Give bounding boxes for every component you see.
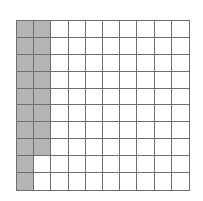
grid-cell [137, 38, 154, 55]
grid-cell [120, 89, 137, 106]
grid-cell-shaded [34, 122, 51, 139]
grid-cell-shaded [17, 89, 34, 106]
grid-cell-shaded [17, 156, 34, 173]
grid-cell [51, 105, 68, 122]
grid-cell [155, 122, 172, 139]
grid-cell [69, 122, 86, 139]
grid-cell [103, 173, 120, 190]
grid-cell-shaded [17, 72, 34, 89]
grid-cell [120, 38, 137, 55]
grid-cell [120, 72, 137, 89]
grid-cell [137, 89, 154, 106]
grid-cell [120, 173, 137, 190]
grid-cell [51, 38, 68, 55]
grid-cell [69, 156, 86, 173]
grid-cell [86, 105, 103, 122]
grid-cell [86, 38, 103, 55]
grid-cell-shaded [17, 173, 34, 190]
grid-cell [155, 38, 172, 55]
grid-cell [86, 122, 103, 139]
grid-cell [51, 21, 68, 38]
grid-cell-shaded [34, 38, 51, 55]
grid-cell [120, 139, 137, 156]
grid-cell [137, 72, 154, 89]
grid-cell [137, 173, 154, 190]
grid-cell-shaded [34, 105, 51, 122]
grid-cell [86, 89, 103, 106]
grid-cell [69, 89, 86, 106]
grid-cell [86, 156, 103, 173]
grid-cell [120, 122, 137, 139]
grid-cell [34, 173, 51, 190]
grid-cell [103, 156, 120, 173]
grid-cell-shaded [17, 21, 34, 38]
grid-cell [120, 156, 137, 173]
grid-cell [155, 55, 172, 72]
grid-cell-shaded [34, 89, 51, 106]
grid-cell [155, 72, 172, 89]
grid-cell [103, 139, 120, 156]
grid-cell-shaded [34, 72, 51, 89]
grid-cell [120, 55, 137, 72]
grid-cell [172, 122, 189, 139]
grid-cell [120, 105, 137, 122]
grid-cell-shaded [17, 105, 34, 122]
grid-cell-shaded [17, 55, 34, 72]
grid-cell [137, 105, 154, 122]
grid-cell [69, 21, 86, 38]
grid-cell [103, 105, 120, 122]
grid-cell [155, 89, 172, 106]
grid-cell [86, 55, 103, 72]
grid-cell [51, 72, 68, 89]
grid-cell [155, 21, 172, 38]
hundred-grid [16, 20, 190, 191]
grid-cell [172, 173, 189, 190]
grid-cell [155, 156, 172, 173]
grid-cell [69, 72, 86, 89]
grid-cell [172, 139, 189, 156]
grid-cell [69, 139, 86, 156]
grid-cell-shaded [17, 38, 34, 55]
grid-cell [172, 72, 189, 89]
grid-cell [103, 72, 120, 89]
grid-cell [103, 55, 120, 72]
grid-cell [155, 173, 172, 190]
grid-cell [69, 105, 86, 122]
grid-cell [172, 156, 189, 173]
grid-cell [51, 89, 68, 106]
grid-cell [51, 55, 68, 72]
grid-cell [137, 21, 154, 38]
grid-cell [172, 105, 189, 122]
grid-cell [51, 156, 68, 173]
grid-cell [155, 139, 172, 156]
grid-cell [103, 89, 120, 106]
grid-cell [86, 72, 103, 89]
grid-cell [137, 156, 154, 173]
grid-cell [69, 55, 86, 72]
grid-cell [86, 139, 103, 156]
grid-cell [103, 38, 120, 55]
grid-cell-shaded [17, 122, 34, 139]
grid-cell [137, 122, 154, 139]
grid-cell [69, 173, 86, 190]
grid-cell-shaded [17, 139, 34, 156]
grid-cell [103, 122, 120, 139]
grid-cell [51, 139, 68, 156]
grid-cell [51, 173, 68, 190]
grid-cell [172, 55, 189, 72]
grid-cell [172, 21, 189, 38]
grid-cell [172, 89, 189, 106]
diagram-canvas [0, 0, 203, 201]
grid-cell-shaded [34, 21, 51, 38]
grid-cell [69, 38, 86, 55]
grid-cell [103, 21, 120, 38]
grid-cell [137, 55, 154, 72]
grid-cell-shaded [34, 55, 51, 72]
grid-cell [137, 139, 154, 156]
grid-cell [51, 122, 68, 139]
grid-cell [86, 21, 103, 38]
grid-cell [34, 156, 51, 173]
grid-cell [120, 21, 137, 38]
grid-cell [155, 105, 172, 122]
grid-cell [172, 38, 189, 55]
